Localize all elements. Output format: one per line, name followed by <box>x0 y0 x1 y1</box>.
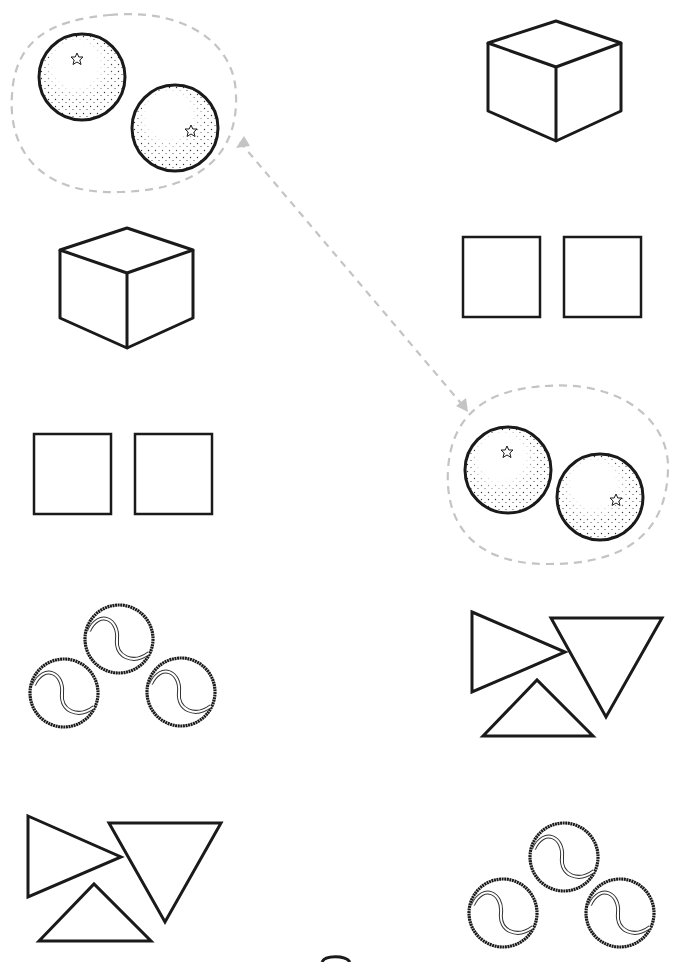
right-item-cube[interactable] <box>488 21 621 141</box>
left-item-squares[interactable] <box>34 434 212 514</box>
right-item-oranges[interactable] <box>448 385 668 564</box>
tennis-ball-icon <box>147 658 215 726</box>
left-item-triangles[interactable] <box>28 816 221 941</box>
dashed-arrow-connector <box>236 136 468 412</box>
tennis-ball-icon <box>586 879 654 947</box>
orange-icon <box>132 85 218 171</box>
orange-icon <box>557 454 643 540</box>
orange-icon <box>39 34 125 120</box>
tennis-ball-icon <box>85 605 153 673</box>
right-item-triangles[interactable] <box>472 612 662 736</box>
page-marker-partial <box>322 957 350 962</box>
left-item-oranges[interactable] <box>12 14 236 192</box>
left-item-tennis-balls[interactable] <box>30 605 215 727</box>
orange-icon <box>465 427 551 513</box>
left-item-cube[interactable] <box>60 228 193 348</box>
tennis-ball-icon <box>469 879 537 947</box>
right-item-tennis-balls[interactable] <box>469 823 654 947</box>
tennis-ball-icon <box>530 823 598 891</box>
right-item-squares[interactable] <box>463 237 641 317</box>
tennis-ball-icon <box>30 659 98 727</box>
